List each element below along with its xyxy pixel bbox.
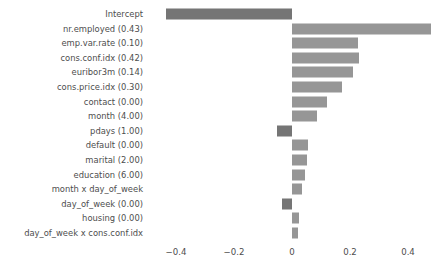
x-tick-label: 0 bbox=[289, 247, 294, 257]
bar bbox=[292, 228, 298, 239]
bar bbox=[292, 96, 327, 107]
bar bbox=[292, 38, 358, 49]
x-tick-label: −0.4 bbox=[166, 247, 187, 257]
category-label: month (4.00) bbox=[88, 111, 143, 121]
category-label: education (6.00) bbox=[74, 170, 143, 180]
category-label: nr.employed (0.43) bbox=[63, 24, 143, 34]
coefficient-bar-chart: Interceptnr.employed (0.43)emp.var.rate … bbox=[0, 0, 437, 271]
category-label: default (0.00) bbox=[86, 140, 143, 150]
bar bbox=[292, 213, 299, 224]
category-label: cons.conf.idx (0.42) bbox=[60, 53, 143, 63]
bar bbox=[166, 9, 292, 20]
bar bbox=[292, 52, 359, 63]
category-axis-labels: Interceptnr.employed (0.43)emp.var.rate … bbox=[0, 0, 147, 243]
category-label: housing (0.00) bbox=[82, 213, 143, 223]
bar bbox=[292, 23, 431, 34]
category-label: contact (0.00) bbox=[84, 97, 143, 107]
bar bbox=[292, 111, 317, 122]
category-label: day_of_week (0.00) bbox=[61, 199, 143, 209]
x-tick-label: −0.2 bbox=[224, 247, 245, 257]
x-axis: −0.4−0.200.20.4 bbox=[147, 243, 437, 271]
bar bbox=[292, 67, 353, 78]
category-label: month x day_of_week bbox=[52, 184, 143, 194]
bar bbox=[282, 198, 292, 209]
bar bbox=[292, 169, 305, 180]
category-label: marital (2.00) bbox=[85, 155, 143, 165]
category-label: euribor3m (0.14) bbox=[72, 67, 143, 77]
bar bbox=[292, 184, 302, 195]
bar bbox=[292, 140, 308, 151]
category-label: cons.price.idx (0.30) bbox=[57, 82, 143, 92]
category-label: pdays (1.00) bbox=[90, 126, 143, 136]
bar bbox=[292, 82, 342, 93]
category-label: emp.var.rate (0.10) bbox=[61, 38, 143, 48]
x-tick-label: 0.4 bbox=[401, 247, 415, 257]
plot-area bbox=[147, 0, 437, 243]
category-label: day_of_week x cons.conf.idx bbox=[24, 228, 143, 238]
x-tick-label: 0.2 bbox=[343, 247, 357, 257]
bar bbox=[292, 155, 307, 166]
category-label: Intercept bbox=[105, 9, 143, 19]
bar bbox=[277, 125, 292, 136]
